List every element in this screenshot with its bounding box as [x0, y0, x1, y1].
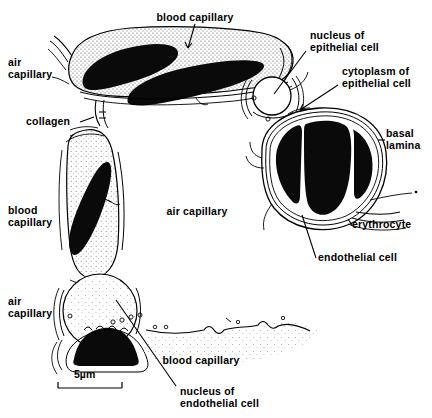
label-nucleus-of-epithelial-cell: nucleus of epithelial cell	[310, 30, 422, 53]
label-collagen: collagen	[26, 116, 88, 128]
vessel-tip-dot	[415, 191, 418, 194]
scale-bar	[58, 382, 122, 388]
label-erythrocyte: erythrocyte	[352, 219, 430, 231]
collagen-mark-bottom	[226, 318, 231, 322]
collagen-strand-a	[95, 100, 100, 126]
vesicle-b-2	[164, 325, 168, 329]
epithelial-line-top-a	[54, 36, 72, 56]
membrane-arc-bl-e	[52, 342, 57, 374]
endothelial-nucleus-region	[52, 274, 148, 374]
junction-right-bottom	[263, 204, 272, 230]
label-air-capillary-bottomleft: air capillary	[8, 296, 76, 319]
figure-container: blood capillary air capillary collagen n…	[0, 0, 432, 418]
label-basal-lamina: basal lamina	[386, 128, 432, 151]
vesicle-b-3	[236, 320, 239, 323]
scale-bar-label: 5µm	[74, 368, 95, 380]
basal-lamina-left-outer	[59, 150, 62, 250]
label-blood-capillary-bottom: blood capillary	[140, 355, 262, 367]
vesicle-b-1	[153, 325, 157, 329]
nucleus-epithelial-cell	[253, 77, 291, 115]
label-air-capillary-topleft: air capillary	[8, 57, 80, 80]
label-air-capillary-center: air capillary	[145, 206, 249, 218]
collagen-strand-b	[103, 100, 108, 128]
label-blood-capillary-top: blood capillary	[134, 12, 256, 24]
label-cytoplasm-of-epithelial-cell: cytoplasm of epithelial cell	[342, 66, 432, 89]
leader-cytoplasm-epithelial	[300, 85, 338, 110]
label-blood-capillary-left: blood capillary	[8, 205, 74, 228]
label-endothelial-cell: endothelial cell	[318, 252, 428, 264]
membrane-arc-bl-d	[58, 340, 63, 370]
junction-right-left-a	[250, 142, 262, 158]
label-nucleus-of-endothelial-cell: nucleus of endothelial cell	[180, 386, 310, 409]
vesicle-b-4	[281, 316, 284, 319]
